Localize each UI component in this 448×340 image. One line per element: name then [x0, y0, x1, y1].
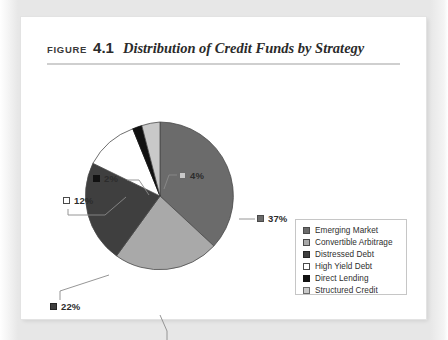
callout-value-direct-lending: 2% — [104, 173, 118, 184]
callout-structured-credit: 4% — [179, 170, 204, 181]
callout-emerging-market: 37% — [257, 213, 287, 224]
figure-label: Figure — [47, 44, 87, 55]
callout-value-structured-credit: 4% — [190, 170, 204, 181]
figure-number: 4.1 — [93, 39, 114, 56]
callout-value-emerging-market: 37% — [268, 213, 287, 224]
leader-line-structured-credit — [164, 175, 177, 189]
direct-lending-swatch-icon — [303, 275, 310, 282]
legend-label-high-yield-debt: High Yield Debt — [315, 261, 372, 272]
callout-value-high-yield-debt: 12% — [74, 195, 93, 206]
legend-label-distressed-debt: Distressed Debt — [315, 249, 374, 260]
figure-caption: Distribution of Credit Funds by Strategy — [123, 40, 364, 57]
callout-distressed-debt: 22% — [50, 301, 80, 312]
legend-item-high-yield-debt[interactable]: High Yield Debt — [303, 261, 400, 272]
legend-label-direct-lending: Direct Lending — [315, 273, 369, 284]
legend-label-emerging-market: Emerging Market — [315, 225, 378, 236]
convertible-arbitrage-swatch-icon — [303, 239, 310, 246]
distressed-debt-swatch-icon — [303, 251, 310, 258]
leader-line-direct-lending — [127, 180, 149, 195]
structured-credit-swatch-icon — [179, 172, 186, 179]
chart-area: 2% 4% 12% 37% 22% 23% — [21, 69, 426, 319]
leader-line-distressed-debt — [60, 275, 109, 300]
legend-label-structured-credit: Structured Credit — [315, 285, 378, 296]
figure-card: Figure 4.1 Distribution of Credit Funds … — [21, 17, 426, 319]
emerging-market-swatch-icon — [303, 227, 310, 234]
legend-item-structured-credit[interactable]: Structured Credit — [303, 285, 400, 296]
callout-high-yield-debt: 12% — [63, 195, 93, 206]
distressed-debt-swatch-icon — [50, 303, 57, 310]
legend-item-distressed-debt[interactable]: Distressed Debt — [303, 249, 400, 260]
structured-credit-swatch-icon — [303, 287, 310, 294]
legend-item-emerging-market[interactable]: Emerging Market — [303, 225, 400, 236]
high-yield-debt-swatch-icon — [303, 263, 310, 270]
figure-screenshot: Figure 4.1 Distribution of Credit Funds … — [0, 0, 448, 340]
emerging-market-swatch-icon — [257, 215, 264, 222]
legend-item-convertible-arbitrage[interactable]: Convertible Arbitrage — [303, 237, 400, 248]
high-yield-debt-swatch-icon — [63, 197, 70, 204]
chart-legend: Emerging Market Convertible Arbitrage Di… — [295, 219, 407, 295]
legend-item-direct-lending[interactable]: Direct Lending — [303, 273, 400, 284]
direct-lending-swatch-icon — [93, 175, 100, 182]
callout-direct-lending: 2% — [93, 173, 118, 184]
legend-label-convertible-arbitrage: Convertible Arbitrage — [315, 237, 393, 248]
title-divider — [47, 63, 400, 65]
callout-value-distressed-debt: 22% — [61, 301, 80, 312]
figure-title: Figure 4.1 Distribution of Credit Funds … — [47, 39, 399, 57]
